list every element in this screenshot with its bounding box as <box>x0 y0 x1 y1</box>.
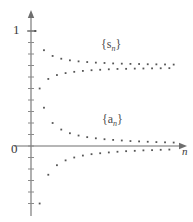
data-point <box>56 164 58 166</box>
data-point <box>143 149 145 151</box>
data-point <box>130 63 132 65</box>
data-point <box>164 64 166 66</box>
data-point <box>160 67 162 69</box>
data-point <box>155 63 157 65</box>
data-point <box>173 142 175 144</box>
data-point <box>69 59 71 61</box>
data-point <box>125 150 127 152</box>
data-point <box>168 149 170 151</box>
sequence-scatter-plot <box>0 0 193 222</box>
data-point <box>134 150 136 152</box>
data-point <box>104 62 106 64</box>
data-point <box>95 137 97 139</box>
data-point <box>173 64 175 66</box>
data-point <box>86 136 88 138</box>
data-point <box>143 68 145 70</box>
data-point <box>125 68 127 70</box>
data-point <box>138 141 140 143</box>
data-point <box>47 78 49 80</box>
data-point <box>104 138 106 140</box>
data-point <box>112 139 114 141</box>
x-axis-label-n: n <box>182 146 188 157</box>
data-point <box>65 159 67 161</box>
data-point <box>168 67 170 69</box>
data-point <box>39 88 41 90</box>
data-point <box>164 141 166 143</box>
data-point <box>73 71 75 73</box>
data-point <box>69 132 71 134</box>
data-point <box>99 152 101 154</box>
annotation-sn-close: } <box>115 37 121 51</box>
data-point <box>60 129 62 131</box>
data-point <box>78 60 80 62</box>
annotation-sn: {sn} <box>101 38 121 53</box>
data-point <box>95 62 97 64</box>
annotation-sn-open: {s <box>101 37 111 51</box>
data-point <box>117 151 119 153</box>
data-point <box>121 140 123 142</box>
data-point <box>160 149 162 151</box>
data-point <box>73 157 75 159</box>
annotation-an: {an} <box>102 113 123 128</box>
data-point <box>91 153 93 155</box>
annotation-an-open: {a <box>102 112 113 126</box>
data-point <box>108 152 110 154</box>
data-point <box>147 63 149 65</box>
data-point <box>134 68 136 70</box>
data-point <box>82 155 84 157</box>
data-point <box>151 149 153 151</box>
data-point <box>65 72 67 74</box>
y-axis-arrowhead <box>28 10 34 18</box>
data-point <box>91 69 93 71</box>
y-tick-label-one: 1 <box>13 23 20 36</box>
data-point <box>147 141 149 143</box>
figure-canvas: 1 0 n {sn} {an} <box>0 0 193 222</box>
data-point <box>86 61 88 63</box>
data-point <box>155 141 157 143</box>
data-point <box>117 68 119 70</box>
origin-label-zero: 0 <box>11 142 18 155</box>
data-point <box>121 63 123 65</box>
data-point <box>34 30 36 32</box>
data-point <box>43 49 45 51</box>
data-point <box>52 122 54 124</box>
data-point <box>78 135 80 137</box>
data-point <box>82 70 84 72</box>
data-point <box>130 140 132 142</box>
data-point <box>60 58 62 60</box>
annotation-an-close: } <box>117 112 123 126</box>
data-point <box>39 203 41 205</box>
data-point <box>99 69 101 71</box>
data-point <box>47 174 49 176</box>
data-point <box>43 107 45 109</box>
data-point <box>56 74 58 76</box>
data-point <box>108 68 110 70</box>
data-point <box>112 63 114 65</box>
data-point <box>52 55 54 57</box>
data-point <box>138 63 140 65</box>
data-point <box>151 67 153 69</box>
